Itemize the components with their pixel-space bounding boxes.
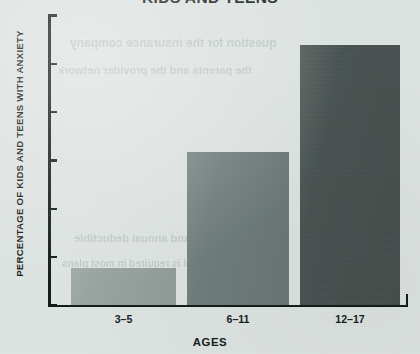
x-axis-title: AGES xyxy=(0,336,420,348)
chart-title: KIDS AND TEENS xyxy=(0,0,420,7)
y-axis-tick-mark xyxy=(48,304,57,306)
y-axis-tick-mark xyxy=(48,15,57,17)
x-axis-category-label: 12–17 xyxy=(300,313,400,325)
bar-6-11[interactable] xyxy=(187,152,289,305)
y-axis-tick-mark xyxy=(48,159,57,161)
bar-12-17[interactable] xyxy=(300,45,400,305)
y-axis-tick-mark xyxy=(48,256,57,258)
x-axis-category-label: 3–5 xyxy=(71,313,176,325)
chart-figure: question for the insurance company the p… xyxy=(0,0,420,354)
y-axis-tick-mark xyxy=(48,111,57,113)
plot-area xyxy=(48,16,406,305)
y-axis-tick-mark xyxy=(48,63,57,65)
y-axis-tick-mark xyxy=(48,208,57,210)
y-axis-title: PERCENTAGE OF KIDS AND TEENS WITH ANXIET… xyxy=(14,4,25,304)
x-axis-line xyxy=(48,305,408,308)
x-axis-right-cap xyxy=(406,294,409,307)
x-axis-category-label: 6–11 xyxy=(187,313,289,325)
bar-3-5[interactable] xyxy=(71,268,176,305)
